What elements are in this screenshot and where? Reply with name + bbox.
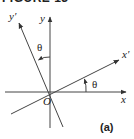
y-prime-label: y′ [8, 10, 17, 22]
theta-arc-x [85, 79, 87, 92]
x-prime-axis [11, 60, 119, 114]
origin-label: O [43, 95, 51, 107]
rotated-axes-diagram: y′ y x′ x O θ θ (a) [0, 0, 134, 139]
theta-label-y: θ [37, 41, 42, 53]
theta-label-x: θ [92, 78, 97, 90]
panel-label: (a) [100, 121, 114, 133]
y-prime-axis [19, 23, 63, 127]
y-label: y [39, 12, 45, 24]
x-prime-label: x′ [121, 48, 130, 60]
x-label: x [120, 93, 126, 105]
theta-arc-y [39, 57, 51, 60]
